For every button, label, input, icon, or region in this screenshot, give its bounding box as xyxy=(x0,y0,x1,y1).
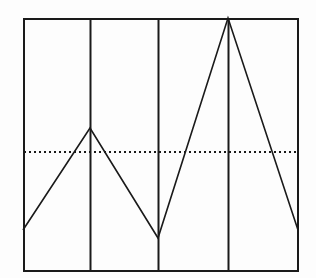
chart-page xyxy=(0,0,316,278)
line-chart xyxy=(0,0,316,278)
